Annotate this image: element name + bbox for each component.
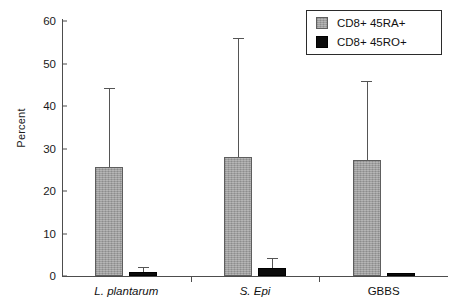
error-bar-cap [138, 267, 149, 268]
x-axis-separator [319, 276, 320, 282]
y-tick-label: 60 [30, 15, 56, 27]
bar-cd8-45ra-2 [353, 160, 381, 276]
y-tick-mark [62, 191, 67, 192]
x-axis-line [62, 276, 448, 277]
y-axis-title: Percent [15, 83, 27, 173]
y-tick-mark [62, 233, 67, 234]
x-axis-separator [191, 276, 192, 282]
bar-cd8-45ra-1 [224, 157, 252, 276]
legend-swatch-icon-black [316, 36, 328, 48]
x-axis-label-1: S. Epi [240, 285, 271, 297]
y-tick-label: 30 [30, 143, 56, 155]
bar-cd8-45ro-1 [258, 268, 286, 276]
legend-swatch-icon-gray [316, 17, 328, 29]
y-tick-mark [62, 106, 67, 107]
error-bar-cap [267, 258, 278, 259]
error-bar-cap [233, 38, 244, 39]
legend-item-cd8-45ro: CD8+ 45RO+ [316, 35, 407, 49]
y-tick-label: 20 [30, 185, 56, 197]
x-axis-label-0: L. plantarum [94, 285, 158, 297]
y-tick-label: 0 [30, 270, 56, 282]
error-bar-cap [104, 88, 115, 89]
bar-chart: Percent 0102030405060 L. plantarumS. Epi… [0, 0, 455, 304]
legend-item-label: CD8+ 45RA+ [337, 17, 405, 29]
legend-item-label: CD8+ 45RO+ [337, 36, 407, 48]
y-tick-label: 50 [30, 58, 56, 70]
y-tick-mark [62, 21, 67, 22]
legend-item-cd8-45ra: CD8+ 45RA+ [316, 16, 405, 30]
legend: CD8+ 45RA+ CD8+ 45RO+ [306, 10, 442, 55]
error-bar-stem [367, 81, 368, 160]
error-bar-stem [238, 38, 239, 157]
error-bar-stem [272, 258, 273, 268]
y-tick-mark [62, 148, 67, 149]
y-tick-label: 10 [30, 228, 56, 240]
error-bar-stem [109, 88, 110, 167]
bar-cd8-45ra-0 [95, 167, 123, 276]
x-axis-label-2: GBBS [368, 285, 400, 297]
y-tick-label: 40 [30, 100, 56, 112]
y-tick-mark [62, 63, 67, 64]
error-bar-cap [361, 81, 372, 82]
